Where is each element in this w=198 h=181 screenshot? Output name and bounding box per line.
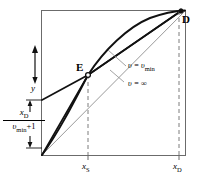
- diagonal-45-line: [42, 11, 185, 155]
- point-marker-e: [86, 73, 91, 78]
- operating-line-min-reflux: [42, 11, 181, 100]
- diagram-canvas: [0, 0, 198, 181]
- y-axis-label: y: [31, 84, 35, 93]
- min-reflux-subscript: min: [145, 65, 155, 72]
- leader-line-min-reflux: [108, 50, 126, 66]
- point-label-d: D: [182, 14, 190, 25]
- fraction-numerator: xD: [3, 108, 45, 120]
- fraction-num-subscript: D: [24, 112, 29, 119]
- intercept-fraction-label: xD υmin+1: [3, 108, 45, 133]
- fraction-den-tail: +1: [26, 121, 35, 131]
- leader-line-total-reflux: [110, 70, 124, 82]
- min-reflux-text: υ = υ: [128, 61, 145, 70]
- x-axis-tick-label-xd: xD: [173, 162, 182, 173]
- xd-subscript: D: [177, 166, 182, 173]
- x-axis-tick-label-xs: xS: [82, 162, 90, 173]
- curve-label-total-reflux: υ = ∞: [128, 80, 147, 88]
- point-label-e: E: [76, 62, 83, 73]
- y-axis-arrow: [32, 45, 38, 84]
- fraction-denominator: υmin+1: [3, 122, 45, 134]
- xs-subscript: S: [86, 166, 90, 173]
- distillation-diagram: E D y xS xD υ = υmin υ = ∞ xD υmin+1: [0, 0, 198, 181]
- fraction-den-subscript: min: [16, 125, 26, 132]
- curve-label-min-reflux: υ = υmin: [128, 62, 155, 72]
